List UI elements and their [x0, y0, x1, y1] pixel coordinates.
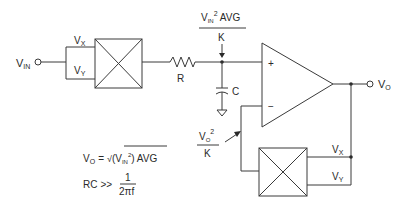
equation-rc-lhs: RC>> [83, 179, 112, 190]
capacitor: C [216, 60, 239, 116]
output-terminal: VO [333, 78, 391, 185]
equation-rms: VO=√(VIN2) AVG [83, 146, 167, 165]
resistor-label: R [177, 73, 184, 84]
equation-rms-text: VO=√(VIN2) AVG [83, 152, 157, 165]
output-label: VO [378, 78, 391, 91]
equation-rc-denominator: 2πf [119, 186, 134, 197]
opamp-minus: − [268, 101, 274, 112]
feedback-arrow-shaft [225, 134, 237, 142]
input-label: VIN [16, 57, 30, 70]
feedback-annotation: VO2 K [197, 128, 241, 159]
annotation-arrow-head [219, 53, 225, 58]
input-terminal-circle [35, 59, 41, 65]
feedback-annotation-denominator: K [204, 148, 211, 159]
opamp-triangle [262, 43, 333, 127]
input-terminal: VIN [16, 57, 66, 70]
node-annotation-numerator: VIN2 AVG [201, 10, 240, 24]
vx-label: VX [74, 35, 86, 47]
resistor: R [170, 57, 262, 84]
output-terminal-circle [367, 81, 373, 87]
node-annotation: VIN2 AVG K [199, 10, 246, 58]
feedback-multiplier: VX VY [241, 106, 353, 196]
vy-label: VY [74, 65, 86, 77]
input-multiplier: VX VY [66, 35, 170, 88]
ground-icon [217, 110, 227, 116]
feedback-vx-label: VX [332, 144, 344, 156]
feedback-annotation-numerator: VO2 [199, 128, 214, 143]
resistor-zigzag [170, 57, 195, 67]
opamp-plus: + [268, 58, 274, 69]
opamp: + − [241, 43, 333, 127]
capacitor-label: C [232, 86, 239, 97]
equation-rc: RC>> 1 2πf [83, 172, 136, 197]
node-annotation-denominator: K [218, 32, 225, 43]
feedback-vy-label: VY [332, 171, 344, 183]
circuit-diagram: VIN VX VY R VIN2 AVG K C [0, 0, 408, 206]
feedback-junction-dot [349, 155, 353, 159]
equation-rc-numerator: 1 [125, 172, 131, 183]
feedback-arrow-head [234, 131, 241, 137]
